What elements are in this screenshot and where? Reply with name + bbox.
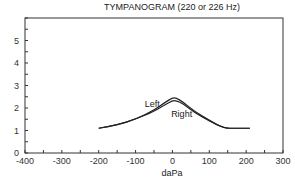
y-tick-label: 1 xyxy=(14,126,19,136)
chart-title: TYMPANOGRAM (220 or 226 Hz) xyxy=(104,2,240,12)
x-tick-label: 300 xyxy=(275,156,290,166)
x-tick-label: -400 xyxy=(16,156,34,166)
annotations: LeftRight xyxy=(145,99,193,119)
x-axis: -400-300-200-1000100200300 xyxy=(16,150,291,166)
y-tick-label: 2 xyxy=(14,103,19,113)
y-tick-label: 3 xyxy=(14,81,19,91)
annotation-left: Left xyxy=(145,99,161,109)
tympanogram-chart: TYMPANOGRAM (220 or 226 Hz) 012345 -400-… xyxy=(0,0,295,182)
y-tick-label: 4 xyxy=(14,58,19,68)
x-tick-label: 100 xyxy=(202,156,217,166)
y-axis: 012345 xyxy=(14,18,28,158)
x-tick-label: -300 xyxy=(53,156,71,166)
annotation-right: Right xyxy=(171,109,193,119)
x-tick-label: 200 xyxy=(239,156,254,166)
y-tick-label: 5 xyxy=(14,36,19,46)
x-axis-label: daPa xyxy=(161,168,182,178)
x-tick-label: -100 xyxy=(127,156,145,166)
x-tick-label: 0 xyxy=(170,156,175,166)
x-tick-label: -200 xyxy=(90,156,108,166)
plot-frame xyxy=(25,18,283,153)
